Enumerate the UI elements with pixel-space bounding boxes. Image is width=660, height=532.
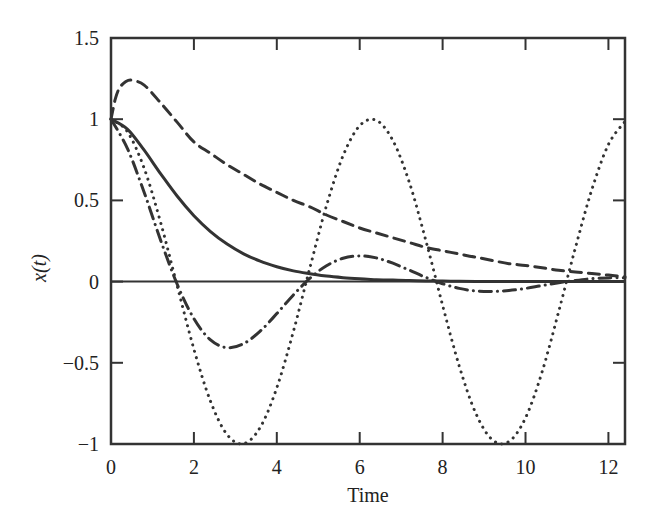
x-tick-label: 4 bbox=[272, 456, 282, 478]
y-axis-label: x(t) bbox=[28, 254, 51, 283]
y-axis-ticks: 1.510.50−0.5−1 bbox=[63, 27, 625, 455]
series-dashed-curve bbox=[111, 80, 625, 277]
x-tick-label: 6 bbox=[355, 456, 365, 478]
y-tick-label: 1.5 bbox=[74, 27, 99, 49]
x-tick-label: 2 bbox=[189, 456, 199, 478]
y-tick-label: 0.5 bbox=[74, 189, 99, 211]
x-axis-ticks: 024681012 bbox=[106, 38, 618, 478]
plot-frame bbox=[111, 38, 625, 444]
chart: 024681012 1.510.50−0.5−1 Time x(t) bbox=[0, 0, 660, 532]
y-tick-label: 0 bbox=[89, 271, 99, 293]
series-dashdot-curve bbox=[111, 119, 625, 348]
x-axis-label: Time bbox=[347, 484, 389, 506]
x-tick-label: 12 bbox=[598, 456, 618, 478]
y-tick-label: −1 bbox=[78, 433, 99, 455]
y-tick-label: 1 bbox=[89, 108, 99, 130]
x-tick-label: 0 bbox=[106, 456, 116, 478]
y-tick-label: −0.5 bbox=[63, 352, 99, 374]
series-layer bbox=[111, 80, 625, 444]
x-tick-label: 10 bbox=[516, 456, 536, 478]
x-tick-label: 8 bbox=[438, 456, 448, 478]
